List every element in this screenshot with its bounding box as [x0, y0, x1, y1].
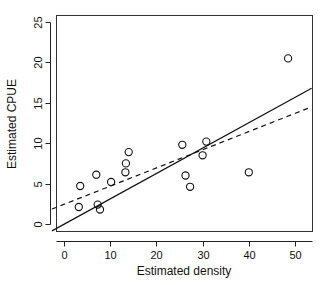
data-point [93, 171, 100, 178]
data-points-group [75, 55, 292, 213]
data-point [187, 183, 194, 190]
x-tick-label: 50 [289, 249, 301, 261]
y-tick-label: 20 [32, 56, 44, 68]
y-tick-label: 0 [32, 221, 44, 227]
data-point [75, 203, 82, 210]
data-point [199, 152, 206, 159]
y-tick-label: 15 [32, 97, 44, 109]
data-point [122, 160, 129, 167]
data-point [125, 149, 132, 156]
data-point [203, 138, 210, 145]
chart-figure: 01020304050 0510152025 Estimated density… [0, 0, 336, 285]
x-tick-label: 30 [197, 249, 209, 261]
data-point [122, 169, 129, 176]
y-tick-label: 5 [32, 181, 44, 187]
y-tick-label: 25 [32, 16, 44, 28]
plot-panel-border [57, 16, 313, 232]
x-axis-tick-labels: 01020304050 [61, 249, 301, 261]
data-point [285, 55, 292, 62]
y-axis-tick-labels: 0510152025 [32, 16, 44, 227]
x-tick-label: 10 [104, 249, 116, 261]
x-axis-ticks [65, 242, 296, 247]
data-point [245, 169, 252, 176]
x-tick-label: 0 [61, 249, 67, 261]
x-axis-title: Estimated density [137, 264, 232, 278]
y-axis-ticks [46, 23, 51, 225]
data-point [77, 182, 84, 189]
scatter-plot-svg: 01020304050 0510152025 Estimated density… [0, 0, 336, 285]
x-tick-label: 20 [150, 249, 162, 261]
data-point [108, 178, 115, 185]
x-tick-label: 40 [243, 249, 255, 261]
regression-line-dashed [52, 107, 312, 209]
y-axis-title: Estimated CPUE [5, 79, 19, 169]
y-tick-label: 10 [32, 137, 44, 149]
data-point [182, 172, 189, 179]
data-point [179, 141, 186, 148]
regression-line-solid [52, 88, 312, 231]
